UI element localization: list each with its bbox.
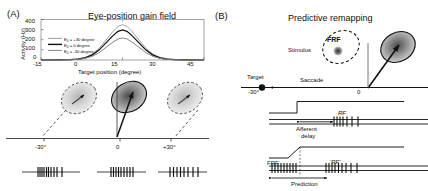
rf-ellipse-right: [162, 76, 209, 120]
spike-train-zero: [97, 167, 146, 177]
timing-trace-bottom: [269, 147, 428, 178]
frf-ellipse: [317, 24, 365, 70]
timing-trace-top: [269, 102, 428, 127]
figure-graphics: [0, 0, 428, 191]
figure-root: (A) Eye-position gain field Activity (Hz…: [0, 0, 428, 191]
tuning-curve-minus30: [41, 38, 204, 60]
rf-ellipse-center: [106, 75, 153, 137]
rf-ellipse-panel-b: [368, 25, 421, 88]
tuning-curve-zero: [41, 30, 204, 60]
target-dot: [259, 84, 265, 90]
panel-a-plot-frame: [41, 20, 204, 61]
legend-swatches: [48, 38, 62, 50]
spike-train-plus30: [158, 167, 207, 177]
spike-train-minus30: [22, 167, 80, 177]
rf-ellipse-left: [56, 76, 103, 120]
stimulus-dot: [333, 46, 342, 55]
